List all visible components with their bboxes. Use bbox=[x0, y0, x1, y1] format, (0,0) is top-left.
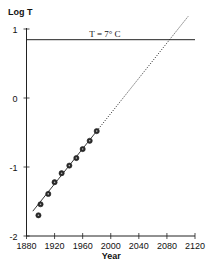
y-axis-title: Log T bbox=[8, 7, 33, 17]
x-tick-label: 2120 bbox=[185, 241, 205, 251]
x-tick-label: 1960 bbox=[73, 241, 93, 251]
data-point-center bbox=[47, 193, 49, 195]
labels: 188019201960200020402080212010-1-2Log TY… bbox=[8, 7, 205, 261]
y-tick-label: 1 bbox=[12, 25, 17, 35]
x-tick-label: 2040 bbox=[129, 241, 149, 251]
chart: 188019201960200020402080212010-1-2Log TY… bbox=[0, 0, 212, 270]
x-axis-title: Year bbox=[102, 251, 122, 261]
x-tick-label: 1880 bbox=[16, 241, 36, 251]
y-tick-label: -2 bbox=[9, 232, 17, 242]
y-tick-label: -1 bbox=[9, 163, 17, 173]
data-point-center bbox=[76, 157, 78, 159]
data-point-center bbox=[96, 130, 98, 132]
data-point-center bbox=[82, 148, 84, 150]
threshold-annotation: T = 7° C bbox=[89, 29, 120, 39]
x-tick-label: 2000 bbox=[101, 241, 121, 251]
data-point-center bbox=[89, 140, 91, 142]
marks bbox=[27, 17, 196, 218]
axes bbox=[24, 28, 196, 239]
x-tick-label: 1920 bbox=[45, 241, 65, 251]
data-point-center bbox=[61, 172, 63, 174]
y-tick-label: 0 bbox=[12, 94, 17, 104]
data-point-center bbox=[54, 181, 56, 183]
x-tick-label: 2080 bbox=[157, 241, 177, 251]
fit-line bbox=[33, 131, 97, 211]
data-point-center bbox=[38, 215, 40, 217]
data-point-center bbox=[69, 165, 71, 167]
data-point-center bbox=[40, 203, 42, 205]
